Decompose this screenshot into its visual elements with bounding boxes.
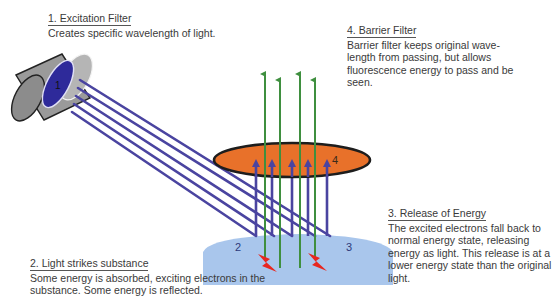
- caption-excitation-filter: 1. Excitation Filter Creates specific wa…: [48, 12, 218, 39]
- marker-1: 1: [55, 80, 61, 91]
- excitation-filter: 1: [5, 49, 99, 126]
- marker-3: 3: [346, 241, 352, 253]
- caption-body: Some energy is absorbed, exciting electr…: [30, 272, 270, 297]
- caption-release-energy: 3. Release of Energy The excited electro…: [388, 207, 553, 284]
- caption-title: 4. Barrier Filter: [347, 24, 416, 38]
- caption-body: Barrier filter keeps original wave-lengt…: [347, 39, 527, 89]
- caption-title: 3. Release of Energy: [388, 207, 486, 221]
- caption-title: 2. Light strikes substance: [30, 257, 148, 271]
- caption-body: Creates specific wavelength of light.: [48, 27, 218, 40]
- caption-barrier-filter: 4. Barrier Filter Barrier filter keeps o…: [347, 24, 527, 89]
- caption-body: The excited electrons fall back to norma…: [388, 222, 553, 285]
- caption-light-strikes: 2. Light strikes substance Some energy i…: [30, 257, 270, 297]
- marker-2: 2: [235, 241, 241, 253]
- caption-title: 1. Excitation Filter: [48, 12, 131, 26]
- marker-4: 4: [332, 154, 338, 166]
